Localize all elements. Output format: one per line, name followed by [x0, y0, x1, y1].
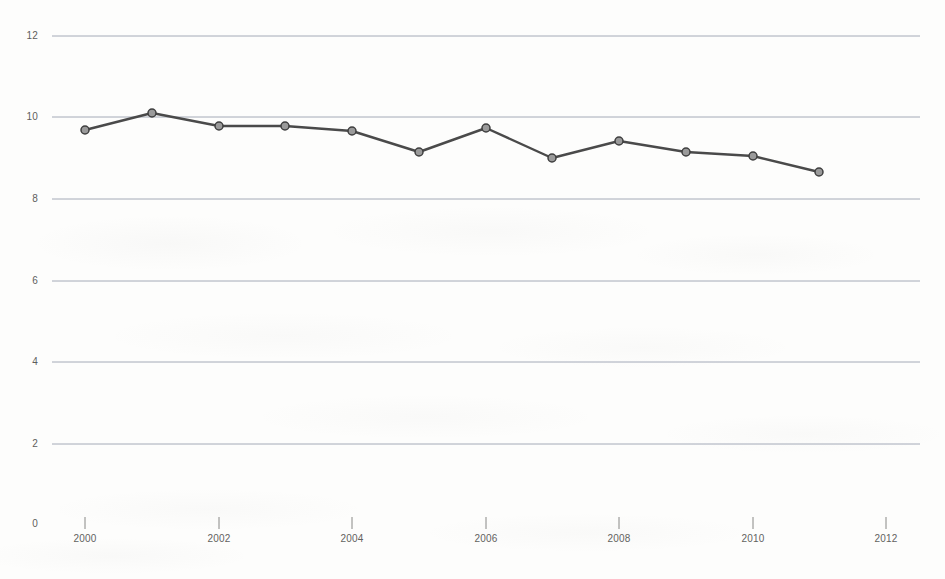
data-point-2007: [548, 154, 556, 162]
ytick-label-2: 2: [4, 438, 38, 449]
data-point-2008: [615, 137, 623, 145]
data-point-2010: [749, 152, 757, 160]
data-point-2001: [148, 109, 156, 117]
ytick-label-0: 0: [4, 518, 38, 529]
xtick-label-2012: 2012: [861, 533, 911, 544]
data-point-2009: [682, 148, 690, 156]
ytick-label-10: 10: [4, 111, 38, 122]
x-axis-ticks: [85, 517, 886, 529]
data-point-2011: [815, 168, 823, 176]
xtick-label-2008: 2008: [594, 533, 644, 544]
xtick-label-2002: 2002: [194, 533, 244, 544]
data-point-2002: [215, 122, 223, 130]
ytick-label-8: 8: [4, 193, 38, 204]
plot-area: [0, 0, 945, 579]
xtick-label-2010: 2010: [728, 533, 778, 544]
data-point-2005: [415, 148, 423, 156]
data-point-2004: [348, 127, 356, 135]
data-point-2000: [81, 126, 89, 134]
ytick-label-6: 6: [4, 275, 38, 286]
data-line: [85, 113, 819, 172]
ytick-label-12: 12: [4, 30, 38, 41]
xtick-label-2006: 2006: [461, 533, 511, 544]
gridlines: [52, 36, 920, 444]
xtick-label-2004: 2004: [327, 533, 377, 544]
xtick-label-2000: 2000: [60, 533, 110, 544]
data-point-2006: [482, 124, 490, 132]
data-point-markers: [81, 109, 823, 176]
ytick-label-4: 4: [4, 356, 38, 367]
data-point-2003: [281, 122, 289, 130]
line-chart: 12 10 8 6 4 2 0 2000 2002 2004 2006 2008…: [0, 0, 945, 579]
